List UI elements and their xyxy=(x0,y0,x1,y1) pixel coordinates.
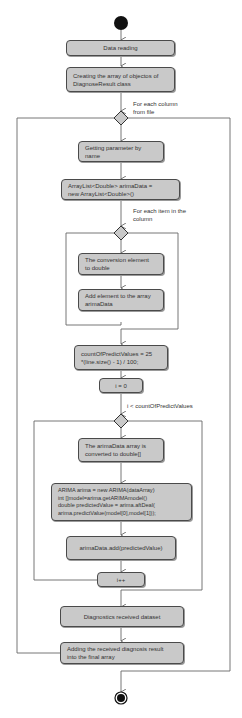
node-label: The arimaData array is converted to doub… xyxy=(85,442,146,458)
node-add-element: Add element to the array arimaData xyxy=(78,289,164,311)
node-add-predicted: arimaData.add(predictedValue) xyxy=(66,536,176,560)
guard-each-column: For each column from file xyxy=(133,100,178,116)
node-label: The conversion element to double xyxy=(85,256,149,272)
guard-loop-condition: i < countOfPredictValues xyxy=(127,402,193,410)
decision-loop-condition xyxy=(114,414,128,428)
node-convert-element: The conversion element to double xyxy=(78,253,164,275)
node-label: countOfPredictValues = 25 *(line.size() … xyxy=(81,350,152,366)
node-label: Data reading xyxy=(103,44,137,52)
node-label: Getting parameter by name xyxy=(85,144,141,160)
node-label: Diagnostics received dataset xyxy=(84,613,161,621)
node-label: ARIMA arima = new ARIMA(dataArray) int [… xyxy=(58,487,156,517)
node-get-param: Getting parameter by name xyxy=(78,141,164,162)
node-diagnostics: Diagnostics received dataset xyxy=(60,606,184,627)
guard-each-item: For each item in the column xyxy=(133,207,186,223)
node-i-init: i = 0 xyxy=(99,378,143,393)
node-label: i = 0 xyxy=(115,382,127,390)
activity-diagram: Data reading Creating the array of objec… xyxy=(0,0,242,718)
node-add-result: Adding the received diagnosis result int… xyxy=(60,642,184,664)
decision-each-item xyxy=(114,226,128,240)
node-data-reading: Data reading xyxy=(66,40,175,56)
node-i-increment: i++ xyxy=(97,572,145,587)
node-arraylist: ArrayList<Double> arimaData = new ArrayL… xyxy=(61,179,180,200)
node-count-predict: countOfPredictValues = 25 *(line.size() … xyxy=(74,345,168,370)
node-label: Creating the array of objectos of Diagno… xyxy=(73,72,158,88)
node-convert-array: The arimaData array is converted to doub… xyxy=(78,438,164,462)
node-arima: ARIMA arima = new ARIMA(dataArray) int [… xyxy=(51,483,192,521)
node-label: arimaData.add(predictedValue) xyxy=(80,544,163,552)
decision-each-column xyxy=(114,111,128,125)
start-node-icon xyxy=(114,16,128,30)
node-label: Adding the received diagnosis result int… xyxy=(67,645,163,661)
node-label: Add element to the array arimaData xyxy=(85,292,151,308)
node-create-array: Creating the array of objectos of Diagno… xyxy=(66,67,175,92)
node-label: ArrayList<Double> arimaData = new ArrayL… xyxy=(68,182,152,198)
node-label: i++ xyxy=(117,576,125,584)
